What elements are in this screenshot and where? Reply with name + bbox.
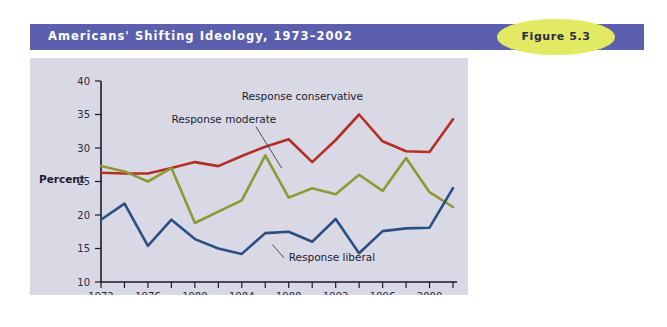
y-tick-label: 20: [77, 210, 90, 221]
x-tick-label: 1992: [323, 291, 348, 295]
line-chart: 1015202530354019721976198019841988199219…: [30, 58, 468, 295]
series-line-1: [101, 155, 453, 223]
x-tick-label: 1972: [88, 291, 113, 295]
liberal-leader-line: [272, 244, 284, 257]
x-tick-label: 1988: [276, 291, 301, 295]
x-tick-label: 2000: [417, 291, 442, 295]
y-tick-label: 40: [77, 76, 90, 87]
y-tick-label: 25: [77, 176, 90, 187]
x-tick-label: 1996: [370, 291, 395, 295]
y-tick-label: 35: [77, 109, 90, 120]
series-label-2: Response liberal: [289, 251, 375, 263]
y-tick-label: 30: [77, 143, 90, 154]
figure-number-label: Figure 5.3: [497, 30, 615, 43]
y-tick-label: 10: [77, 277, 90, 288]
figure-container: Americans' Shifting Ideology, 1973–2002 …: [0, 0, 667, 327]
y-tick-label: 15: [77, 243, 90, 254]
series-label-0: Response conservative: [242, 90, 363, 102]
x-tick-label: 1984: [229, 291, 254, 295]
x-tick-label: 1976: [135, 291, 160, 295]
series-line-2: [101, 188, 453, 254]
x-tick-label: 1980: [182, 291, 207, 295]
page-title: Americans' Shifting Ideology, 1973–2002: [48, 29, 353, 43]
series-label-1: Response moderate: [171, 113, 276, 125]
